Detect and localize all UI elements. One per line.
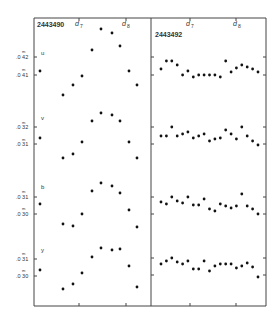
data-point	[219, 137, 222, 140]
data-point	[224, 263, 227, 266]
data-point	[160, 135, 163, 138]
data-point	[224, 129, 227, 132]
data-point	[81, 213, 84, 216]
data-point	[181, 202, 184, 205]
data-point	[208, 74, 211, 77]
data-point	[91, 190, 94, 193]
data-point	[128, 70, 131, 73]
data-point	[251, 68, 254, 71]
data-point	[136, 157, 139, 160]
data-point	[165, 260, 168, 263]
data-point	[136, 226, 139, 229]
data-point	[39, 137, 42, 140]
data-point	[39, 203, 42, 206]
left-panel-id: 2443490	[37, 21, 64, 28]
data-point	[257, 213, 260, 216]
data-point	[240, 64, 243, 67]
data-point	[230, 133, 233, 136]
data-point	[160, 68, 163, 71]
data-point	[214, 265, 217, 268]
data-point	[257, 276, 260, 279]
data-point	[208, 140, 211, 143]
data-point	[128, 209, 131, 212]
data-point	[251, 266, 254, 269]
phase-markers: d 7 d 8 d 7 d 8	[75, 20, 241, 29]
data-point	[251, 208, 254, 211]
svg-text:.0 31: .0 31	[16, 194, 28, 200]
data-point	[240, 126, 243, 129]
data-point	[39, 269, 42, 272]
data-point	[111, 114, 114, 117]
data-point	[187, 196, 190, 199]
data-point	[136, 84, 139, 87]
svg-text:.0 30: .0 30	[16, 273, 28, 279]
data-point	[176, 261, 179, 264]
data-point	[197, 204, 200, 207]
data-point	[62, 223, 65, 226]
data-point	[230, 71, 233, 74]
svg-text:.0 32: .0 32	[16, 124, 28, 130]
data-point	[72, 283, 75, 286]
data-point	[81, 272, 84, 275]
data-point	[224, 60, 227, 63]
data-point	[170, 196, 173, 199]
data-point	[100, 247, 103, 250]
data-point	[246, 66, 249, 69]
data-point	[176, 200, 179, 203]
data-point	[203, 198, 206, 201]
data-point	[224, 205, 227, 208]
data-point	[176, 135, 179, 138]
data-point	[251, 140, 254, 143]
svg-text:8: 8	[238, 23, 241, 29]
svg-text:.0 31: .0 31	[16, 256, 28, 262]
data-point	[230, 207, 233, 210]
data-point	[219, 203, 222, 206]
data-point	[72, 84, 75, 87]
data-point	[136, 286, 139, 289]
data-point	[128, 265, 131, 268]
data-point	[111, 185, 114, 188]
band-labels: u v b y	[41, 50, 45, 253]
data-point	[181, 133, 184, 136]
band-y-label: y	[41, 247, 44, 253]
data-point	[111, 32, 114, 35]
data-point	[165, 203, 168, 206]
photometry-chart: 2443490 2443492 d 7 d 8 d 7 d 8 u v b y …	[0, 0, 277, 322]
data-point	[230, 263, 233, 266]
band-u-label: u	[41, 50, 44, 56]
data-point	[91, 120, 94, 123]
right-panel-id: 2443492	[155, 31, 182, 38]
data-point	[165, 135, 168, 138]
svg-text:8: 8	[127, 23, 130, 29]
data-point	[214, 74, 217, 77]
data-point	[119, 120, 122, 123]
data-point	[192, 76, 195, 79]
data-point	[235, 67, 238, 70]
data-point	[160, 263, 163, 266]
data-point	[72, 225, 75, 228]
data-point	[181, 74, 184, 77]
data-point	[81, 75, 84, 78]
data-point	[39, 70, 42, 73]
data-points	[39, 28, 260, 291]
data-point	[208, 270, 211, 273]
svg-text:7: 7	[80, 23, 83, 29]
data-point	[257, 71, 260, 74]
data-point	[214, 210, 217, 213]
svg-text:.0 30: .0 30	[16, 211, 28, 217]
svg-text:7: 7	[191, 23, 194, 29]
data-point	[192, 268, 195, 271]
data-point	[214, 138, 217, 141]
data-point	[81, 141, 84, 144]
svg-text:.0 41: .0 41	[16, 72, 28, 78]
data-point	[219, 263, 222, 266]
data-point	[192, 204, 195, 207]
data-point	[91, 49, 94, 52]
data-point	[165, 60, 168, 63]
data-point	[160, 201, 163, 204]
data-point	[235, 205, 238, 208]
data-point	[100, 112, 103, 115]
data-point	[197, 135, 200, 138]
data-point	[128, 141, 131, 144]
data-point	[246, 135, 249, 138]
